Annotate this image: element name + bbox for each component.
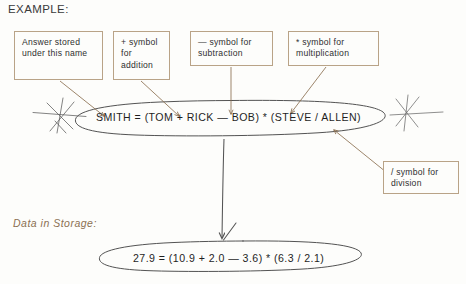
flow-arrow — [222, 139, 224, 238]
callout-star-symbol: * symbol for multiplication — [288, 31, 379, 66]
numeric-equation: 27.9 = (10.9 + 2.0 — 3.6) * (6.3 / 2.1) — [133, 252, 324, 264]
callout-slash-symbol: / symbol for division — [383, 161, 459, 194]
star-scribble-right — [390, 95, 443, 131]
flow-arrow-barb — [224, 223, 237, 240]
leader-slash-symbol — [334, 130, 386, 172]
callout-minus-symbol: — symbol for subtraction — [190, 31, 273, 66]
leader-star-symbol — [291, 67, 326, 113]
data-in-storage-label: Data in Storage: — [13, 217, 97, 229]
callout-answer-name: Answer stored under this name — [14, 31, 103, 80]
symbolic-equation: SMITH = (TOM + RICK — BOB) * (STEVE / AL… — [96, 111, 361, 123]
diagram-canvas: EXAMPLE: Data in Storage: Answer stored … — [0, 0, 466, 284]
page-title: EXAMPLE: — [8, 3, 69, 15]
callout-plus-symbol: + symbol for addition — [113, 31, 170, 80]
